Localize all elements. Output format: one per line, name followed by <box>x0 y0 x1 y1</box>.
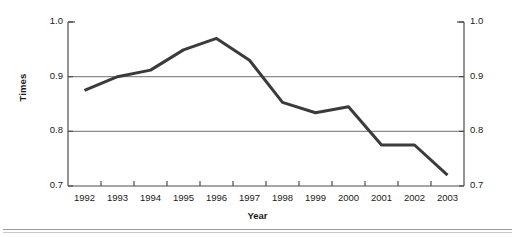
y-tick-label-left-0.7: 0.7 <box>50 179 63 190</box>
y-tick-label-right-1.0: 1.0 <box>470 15 483 26</box>
y-tick-label-left-0.9: 0.9 <box>50 70 63 81</box>
series-line-0 <box>85 38 448 175</box>
gridlines-group <box>68 77 464 132</box>
y-tick-label-right-0.8: 0.8 <box>470 124 483 135</box>
x-tick-label-1998: 1998 <box>266 192 300 203</box>
footer-divider-secondary <box>3 232 512 233</box>
y-tick-label-right-0.7: 0.7 <box>470 179 483 190</box>
axes-group <box>68 22 464 186</box>
y-tick-label-left-0.8: 0.8 <box>50 124 63 135</box>
chart-figure: Times 1.01.00.90.90.80.80.70.7 199219931… <box>0 0 515 237</box>
x-tick-label-2002: 2002 <box>398 192 432 203</box>
y-tick-label-right-0.9: 0.9 <box>470 70 483 81</box>
x-tick-label-1997: 1997 <box>233 192 267 203</box>
data-series-group <box>85 38 448 175</box>
x-tick-label-1994: 1994 <box>134 192 168 203</box>
x-tick-label-2000: 2000 <box>332 192 366 203</box>
x-tick-label-1993: 1993 <box>101 192 135 203</box>
x-axis-title: Year <box>0 210 515 221</box>
x-tick-label-2003: 2003 <box>431 192 465 203</box>
y-axis-title: Times <box>17 58 28 118</box>
tick-marks-group <box>68 22 464 186</box>
x-tick-label-2001: 2001 <box>365 192 399 203</box>
x-tick-label-1999: 1999 <box>299 192 333 203</box>
footer-divider <box>3 229 512 230</box>
y-tick-label-left-1.0: 1.0 <box>50 15 63 26</box>
x-tick-label-1992: 1992 <box>68 192 102 203</box>
x-tick-label-1996: 1996 <box>200 192 234 203</box>
x-tick-label-1995: 1995 <box>167 192 201 203</box>
